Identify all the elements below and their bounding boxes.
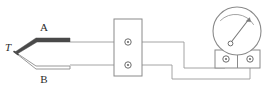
thermocouple-element-b	[15, 52, 70, 69]
diagram-canvas: T A B	[0, 0, 271, 91]
thermocouple-circuit-figure: T A B	[0, 0, 271, 91]
label-wire-a: A	[40, 21, 48, 33]
label-junction-t: T	[5, 41, 12, 53]
terminal-block-screw-upper-center	[127, 41, 129, 43]
meter-needle-pivot	[228, 41, 233, 46]
label-wire-b: B	[40, 73, 47, 85]
terminal-block-screw-lower-center	[127, 64, 129, 66]
meter-terminal-left-center	[225, 58, 227, 60]
meter-terminal-right-center	[249, 58, 251, 60]
lead-block-to-meter-left	[142, 42, 225, 68]
thermocouple-element-a	[15, 38, 70, 54]
